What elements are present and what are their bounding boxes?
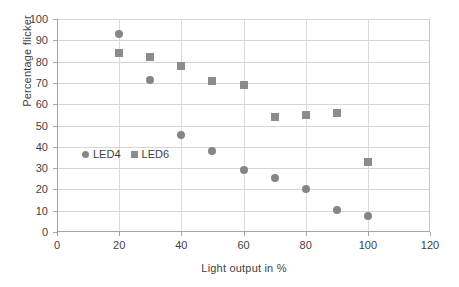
- y-tick-label-20: 20: [4, 184, 48, 195]
- y-tick-label-10: 10: [4, 206, 48, 217]
- gridline-x-80: [306, 19, 307, 232]
- x-tick-mark-80: [306, 232, 307, 236]
- data-point-led4-60: [240, 166, 248, 174]
- y-tick-label-80: 80: [4, 57, 48, 68]
- x-tick-mark-100: [368, 232, 369, 236]
- y-tick-label-40: 40: [4, 142, 48, 153]
- data-point-led6-70: [271, 113, 279, 121]
- data-point-led6-40: [177, 62, 185, 70]
- legend-label-led4: LED4: [93, 148, 121, 160]
- legend-circle-marker-icon: [82, 151, 89, 158]
- data-point-led6-30: [146, 53, 154, 61]
- plot-right-border: [429, 19, 430, 232]
- x-tick-mark-40: [181, 232, 182, 236]
- data-point-led6-100: [364, 158, 372, 166]
- x-tick-mark-60: [244, 232, 245, 236]
- legend-entry-led6: LED6: [131, 148, 170, 160]
- data-point-led4-70: [271, 174, 279, 182]
- data-point-led4-100: [364, 212, 372, 220]
- y-axis-line: [57, 19, 58, 232]
- legend-square-marker-icon: [131, 151, 138, 158]
- chart-legend: LED4 LED6: [82, 148, 169, 160]
- data-point-led6-90: [333, 109, 341, 117]
- y-tick-label-60: 60: [4, 99, 48, 110]
- y-tick-label-90: 90: [4, 35, 48, 46]
- x-tick-label-100: 100: [348, 240, 388, 251]
- x-tick-label-20: 20: [99, 240, 139, 251]
- x-tick-label-60: 60: [224, 240, 264, 251]
- data-point-led4-30: [146, 76, 154, 84]
- data-point-led4-40: [177, 131, 185, 139]
- x-tick-label-40: 40: [161, 240, 201, 251]
- y-tick-label-50: 50: [4, 121, 48, 132]
- data-point-led6-50: [208, 77, 216, 85]
- legend-label-led6: LED6: [142, 148, 170, 160]
- x-tick-label-0: 0: [37, 240, 77, 251]
- y-tick-label-30: 30: [4, 163, 48, 174]
- x-tick-label-80: 80: [286, 240, 326, 251]
- plot-area: [57, 19, 430, 232]
- gridline-x-60: [244, 19, 245, 232]
- x-tick-label-120: 120: [410, 240, 450, 251]
- scatter-chart: Percentage flicker 010203040506070809010…: [0, 0, 459, 287]
- gridline-x-40: [181, 19, 182, 232]
- x-tick-mark-0: [57, 232, 58, 236]
- y-tick-label-70: 70: [4, 78, 48, 89]
- x-tick-mark-20: [119, 232, 120, 236]
- data-point-led4-20: [115, 30, 123, 38]
- gridline-x-100: [368, 19, 369, 232]
- y-tick-label-100: 100: [4, 14, 48, 25]
- data-point-led6-20: [115, 49, 123, 57]
- data-point-led6-80: [302, 111, 310, 119]
- data-point-led6-60: [240, 81, 248, 89]
- data-point-led4-80: [302, 185, 310, 193]
- data-point-led4-50: [208, 147, 216, 155]
- y-tick-label-0: 0: [4, 227, 48, 238]
- legend-entry-led4: LED4: [82, 148, 121, 160]
- data-point-led4-90: [333, 206, 341, 214]
- x-axis-title: Light output in %: [57, 262, 431, 274]
- x-tick-mark-120: [430, 232, 431, 236]
